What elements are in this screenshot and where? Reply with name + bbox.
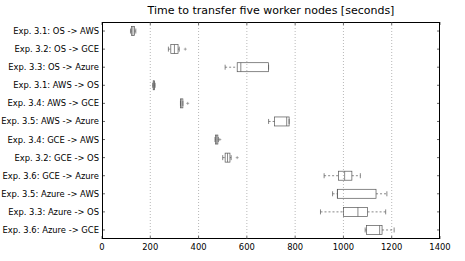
box-plots [0, 0, 465, 261]
